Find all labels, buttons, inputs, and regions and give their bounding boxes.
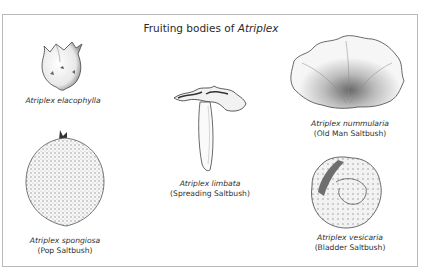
common-name: (Old Man Saltbush): [290, 129, 410, 139]
title-genus: Atriplex: [238, 22, 279, 34]
scientific-name: Atriplex limbata: [150, 179, 270, 189]
caption-elacophylla: Atriplex elacophylla: [8, 96, 118, 106]
illustration-limbata: [172, 84, 248, 174]
scientific-name: Atriplex elacophylla: [8, 96, 118, 106]
illustration-nummularia: [286, 33, 408, 113]
scientific-name: Atriplex spongiosa: [10, 236, 120, 246]
illustration-elacophylla: [38, 40, 86, 92]
caption-vesicaria: Atriplex vesicaria (Bladder Saltbush): [290, 233, 410, 253]
common-name: (Spreading Saltbush): [150, 189, 270, 199]
caption-spongiosa: Atriplex spongiosa (Pop Saltbush): [10, 236, 120, 256]
illustration-vesicaria: [306, 152, 386, 232]
title-text: Fruiting bodies of: [143, 22, 237, 34]
common-name: (Pop Saltbush): [10, 246, 120, 256]
scientific-name: Atriplex vesicaria: [290, 233, 410, 243]
caption-limbata: Atriplex limbata (Spreading Saltbush): [150, 179, 270, 199]
scientific-name: Atriplex nummularia: [290, 119, 410, 129]
illustration-spongiosa: [22, 128, 108, 228]
common-name: (Bladder Saltbush): [290, 243, 410, 253]
caption-nummularia: Atriplex nummularia (Old Man Saltbush): [290, 119, 410, 139]
